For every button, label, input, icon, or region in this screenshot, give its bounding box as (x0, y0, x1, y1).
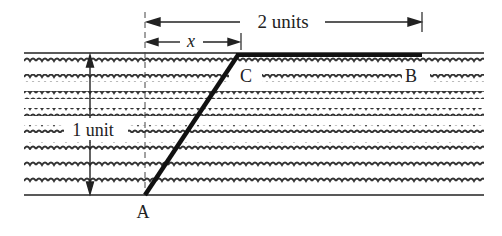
x-label: x (186, 31, 195, 51)
one-unit-label: 1 unit (72, 120, 114, 140)
river-crossing-diagram: 2 units x 1 unit C B A (0, 0, 502, 236)
point-c-label: C (240, 66, 252, 86)
two-units-label: 2 units (257, 11, 308, 32)
point-b-label: B (405, 66, 417, 86)
point-a-label: A (137, 202, 150, 222)
